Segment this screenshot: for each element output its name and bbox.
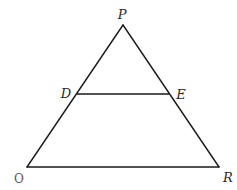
side-PR: [123, 25, 219, 167]
point-label-d: D: [60, 86, 72, 101]
vertex-label-r: R: [222, 170, 233, 185]
vertex-label-o: O: [14, 172, 24, 186]
vertex-label-p: P: [117, 7, 127, 22]
point-label-e: E: [175, 87, 186, 102]
side-PO: [27, 25, 123, 167]
triangle-diagram: P D E O R: [0, 0, 237, 190]
